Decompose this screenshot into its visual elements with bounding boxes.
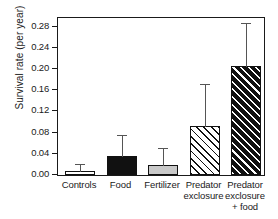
bar (107, 156, 137, 175)
y-axis-tick-label: 0.28 (31, 20, 49, 31)
bar (148, 165, 178, 175)
y-axis-tick: 0.00 (52, 174, 58, 175)
error-bar (246, 24, 247, 67)
plot-area: 0.000.040.080.120.160.200.240.28 (57, 17, 265, 176)
error-bar (122, 136, 123, 157)
y-axis-tick-label: 0.20 (31, 62, 49, 73)
y-axis-tick-label: 0.16 (31, 83, 49, 94)
y-axis-tick: 0.12 (52, 110, 58, 111)
error-bar (80, 165, 81, 172)
y-axis-tick-label: 0.00 (31, 168, 49, 179)
y-axis-tick: 0.08 (52, 132, 58, 133)
y-axis-tick-label: 0.12 (31, 104, 49, 115)
y-axis-label: Survival rate (per year) (14, 0, 25, 133)
y-axis-tick-label: 0.04 (31, 147, 49, 158)
y-axis-tick: 0.20 (52, 68, 58, 69)
error-bar-cap (241, 23, 251, 24)
y-axis-tick-label: 0.24 (31, 41, 49, 52)
error-bar (205, 85, 206, 127)
error-bar-cap (117, 135, 127, 136)
y-axis-tick: 0.24 (52, 47, 58, 48)
y-axis-tick-label: 0.08 (31, 126, 49, 137)
error-bar (163, 149, 164, 166)
x-axis-label: Predator exclosure + food (219, 179, 271, 212)
y-axis-tick: 0.28 (52, 26, 58, 27)
bar (231, 66, 261, 175)
error-bar-cap (75, 164, 85, 165)
bar (190, 126, 220, 175)
error-bar-cap (158, 148, 168, 149)
y-axis-tick: 0.04 (52, 153, 58, 154)
bar-chart-figure: Survival rate (per year) 0.000.040.080.1… (0, 0, 278, 219)
error-bar-cap (200, 84, 210, 85)
y-axis-tick: 0.16 (52, 89, 58, 90)
